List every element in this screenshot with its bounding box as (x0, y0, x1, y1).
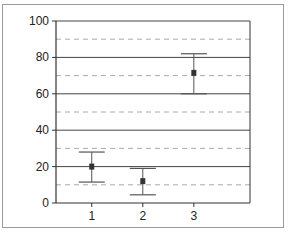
data-point-marker (191, 70, 196, 76)
data-point-marker (140, 178, 145, 184)
y-tick-label: 100 (29, 14, 49, 28)
data-point-marker (89, 164, 94, 170)
x-tick-label: 2 (139, 209, 146, 223)
y-tick-label: 40 (36, 123, 50, 137)
error-bar-chart: 020406080100123 (0, 0, 289, 235)
y-tick-label: 20 (36, 160, 50, 174)
y-tick-label: 0 (42, 196, 49, 210)
x-tick-label: 3 (190, 209, 197, 223)
y-tick-label: 60 (36, 87, 50, 101)
x-tick-label: 1 (88, 209, 95, 223)
y-tick-label: 80 (36, 50, 50, 64)
